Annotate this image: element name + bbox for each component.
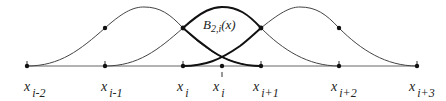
curve-label-sub: 2,i (211, 23, 221, 34)
knot-label-i+1: xi+1 (253, 80, 279, 94)
basis-curve-bold-lower (183, 28, 261, 66)
basis-curve-right (261, 7, 417, 66)
knot-label-i+2: xi+2 (331, 80, 357, 94)
curve-label-b2i: B2,i(x) (203, 17, 236, 33)
basis-curve-bold-lower-2 (183, 28, 261, 66)
basis-curve-mid-left (105, 28, 183, 66)
knot-label-i-2: xi-2 (24, 80, 46, 94)
knot-label-i+3: xi+3 (409, 80, 435, 94)
basis-curve-mid-left-tail (261, 28, 339, 66)
knot-label-i-1: xi-1 (101, 80, 123, 94)
knot-label-i-mid: xi (213, 80, 225, 94)
curve-label-arg: (x) (221, 17, 235, 32)
curve-label-main: B (203, 17, 211, 32)
knot-label-i: xi (177, 80, 189, 94)
